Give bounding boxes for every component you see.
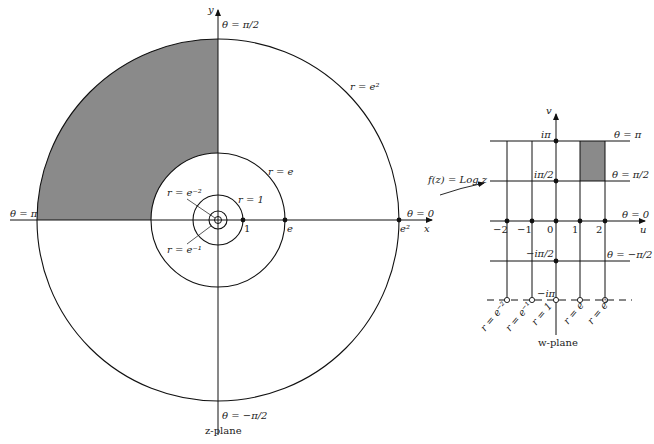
w-theta-pi: θ = π (614, 129, 642, 140)
x-axis-label: x (424, 223, 430, 234)
point-label-1: 1 (244, 223, 250, 234)
open-point-2 (529, 297, 534, 302)
leader-e-minus1 (187, 226, 211, 244)
point-e (283, 218, 288, 223)
u-axis-label: u (640, 224, 646, 235)
label-r-1: r = 1 (238, 194, 264, 205)
theta-top-label: θ = π/2 (222, 19, 259, 30)
shaded-region-w (580, 141, 605, 181)
label-r-e: r = e (268, 166, 294, 177)
label-r-e2: r = e² (350, 81, 379, 92)
mapping: f(z) = Log z (427, 174, 488, 195)
point-neg-ipi-2 (554, 259, 559, 264)
w-theta-half-pi: θ = π/2 (612, 169, 649, 180)
v-tick-neg-pi: −iπ (537, 288, 556, 299)
v-axis-label: v (546, 105, 552, 116)
v-tick-half-pi: iπ/2 (534, 169, 554, 180)
open-point-1 (504, 297, 509, 302)
point-u-2 (603, 219, 608, 224)
w-plane-caption: w-plane (538, 337, 578, 348)
z-plane-caption: z-plane (205, 425, 242, 436)
label-r-e-minus2: r = e⁻² (167, 187, 202, 198)
w-r-label-e: r = e (561, 300, 586, 327)
point-u-neg2 (505, 219, 510, 224)
w-r-label-e2: r = e² (585, 297, 612, 327)
u-tick-2: 2 (596, 224, 602, 235)
w-theta-neg-half-pi: θ = −π/2 (607, 249, 652, 260)
figure: y x θ = π/2 θ = −π/2 θ = π θ = 0 r = e² … (0, 0, 654, 444)
w-r-label-1: r = 1 (529, 300, 554, 327)
u-tick-1: 1 (572, 224, 578, 235)
u-tick-neg2: −2 (493, 224, 508, 235)
point-ipi (554, 139, 559, 144)
point-u-1 (578, 219, 583, 224)
point-u-0 (554, 219, 559, 224)
u-tick-neg1: −1 (517, 224, 532, 235)
theta-left-label: θ = π (10, 208, 38, 219)
point-label-e: e (287, 223, 293, 234)
w-theta-zero: θ = 0 (622, 209, 650, 220)
mapping-label: f(z) = Log z (427, 174, 488, 185)
u-tick-0: 0 (547, 224, 553, 235)
point-label-e2: e² (400, 223, 410, 234)
point-1 (241, 218, 246, 223)
point-e2 (397, 218, 402, 223)
w-plane: v u iπ iπ/2 −iπ/2 −iπ −2 −1 0 1 2 θ = π … (478, 105, 652, 348)
label-r-e-minus1: r = e⁻¹ (167, 244, 202, 255)
point-u-neg1 (530, 219, 535, 224)
w-r-label-e-minus1: r = e⁻¹ (503, 300, 534, 334)
theta-bottom-label: θ = −π/2 (222, 410, 267, 421)
v-tick-neg-half-pi: −iπ/2 (526, 248, 554, 259)
v-tick-pi: iπ (541, 129, 551, 140)
point-ipi-2 (554, 179, 559, 184)
theta-right-label: θ = 0 (407, 208, 435, 219)
y-axis-label: y (207, 4, 214, 15)
z-plane: y x θ = π/2 θ = −π/2 θ = π θ = 0 r = e² … (10, 4, 435, 436)
